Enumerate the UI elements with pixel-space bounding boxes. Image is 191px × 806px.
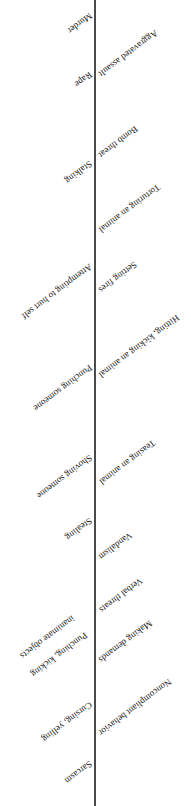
- vertical-divider-line: [94, 0, 96, 806]
- continuum-label: Verbal threats: [97, 576, 144, 615]
- continuum-label: Vandalism: [97, 530, 135, 562]
- severity-continuum-figure: Sarcasm Cursing, yelling Punching, kicki…: [0, 0, 191, 806]
- continuum-label: Setting fires: [97, 259, 139, 295]
- continuum-label: Torturing an animal: [97, 182, 162, 235]
- continuum-label: Murder: [66, 11, 94, 36]
- continuum-label: Rape: [73, 70, 94, 90]
- continuum-label: Aggravated assault: [97, 28, 160, 79]
- continuum-label: Shoving someone: [35, 453, 94, 501]
- continuum-label: Noncompliant behavior: [97, 677, 174, 738]
- continuum-label: Bomb threat: [97, 124, 140, 160]
- continuum-label: Stealing: [63, 516, 94, 543]
- continuum-label: Attempting to hurt self: [20, 262, 94, 322]
- continuum-label: Cursing, yelling: [40, 700, 94, 744]
- continuum-label: Punching, kicking inanimate objects: [10, 596, 107, 687]
- continuum-label: Sarcasm: [63, 759, 94, 786]
- continuum-label: Stalking: [63, 159, 94, 186]
- continuum-label: Hitting, kicking an animal: [97, 313, 181, 380]
- continuum-label: Teasing an animal: [97, 438, 157, 487]
- continuum-label: Making demands: [97, 618, 154, 665]
- continuum-label: Punching someone: [32, 363, 94, 414]
